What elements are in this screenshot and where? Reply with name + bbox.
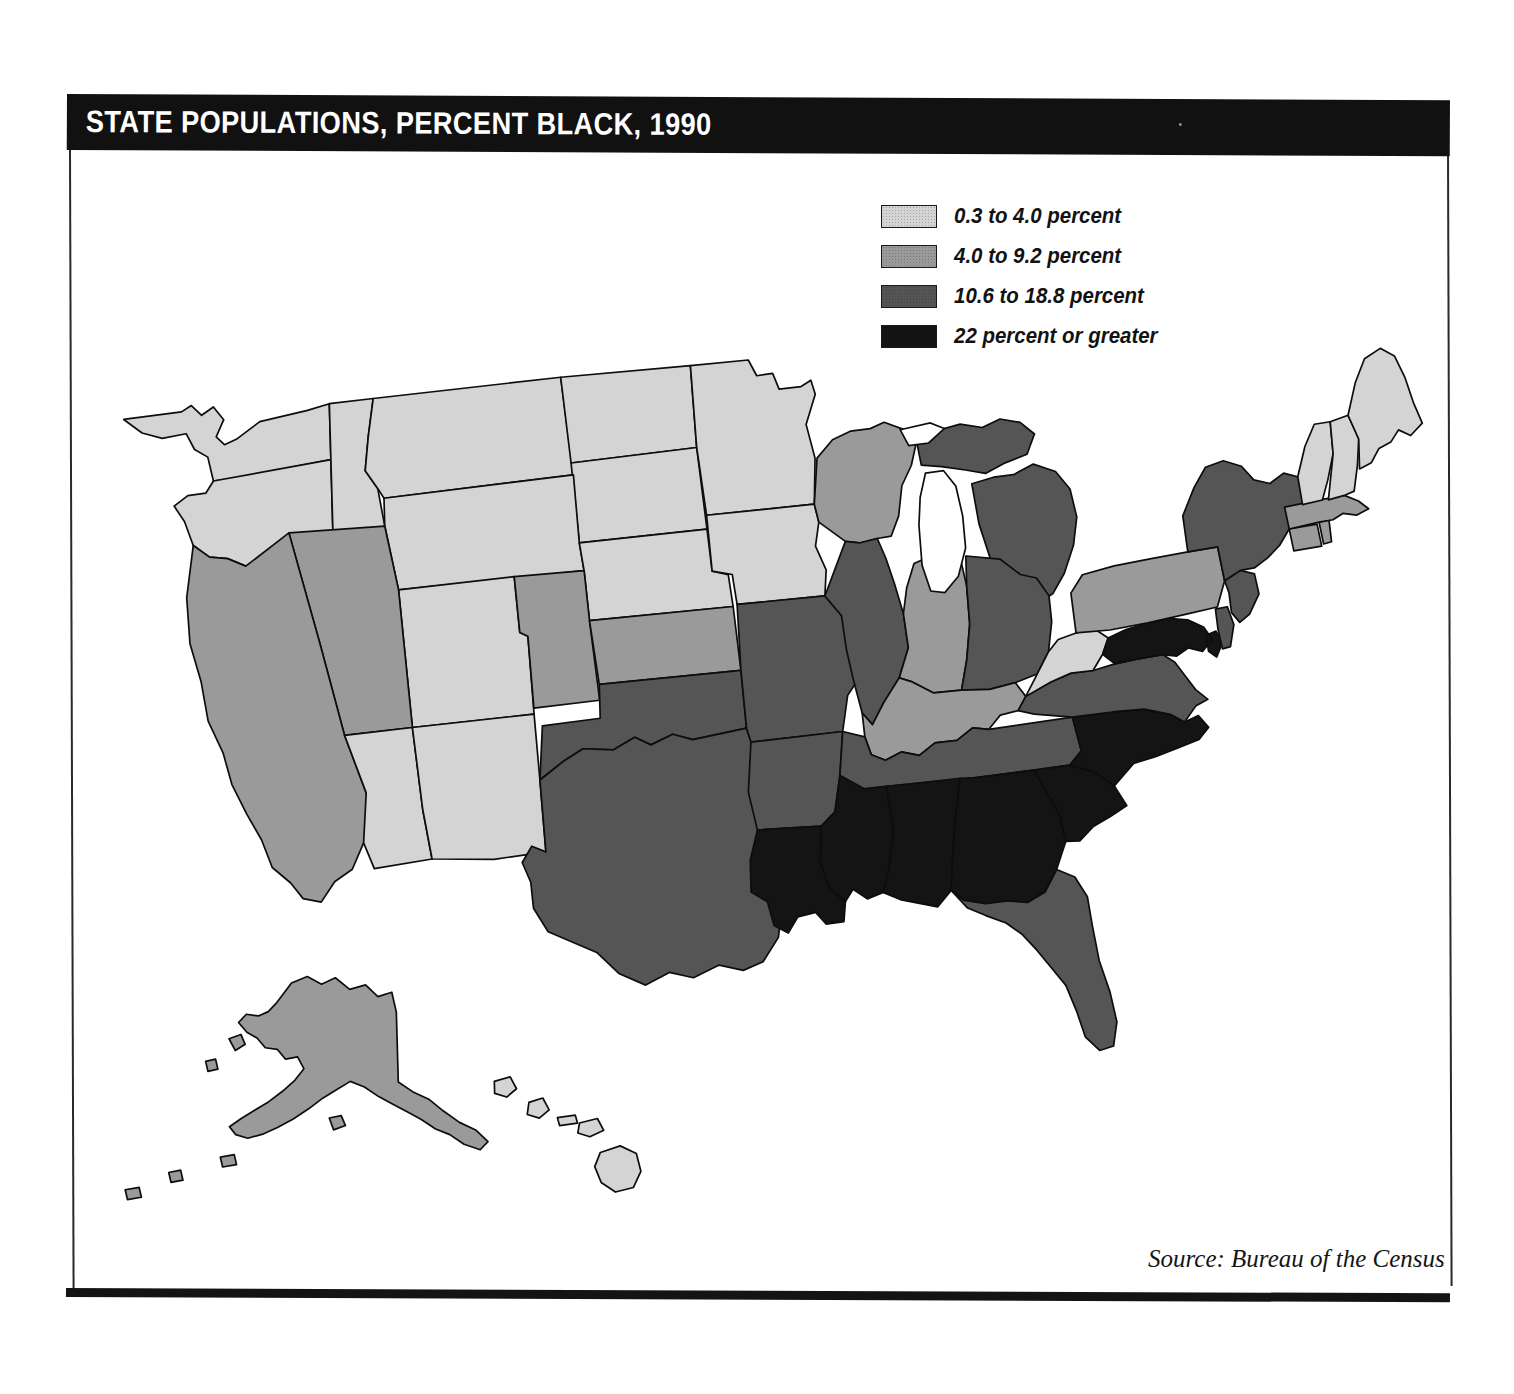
legend-swatch-bin3: [881, 285, 937, 308]
state-NM: [412, 714, 546, 862]
state-AK-island-1: [229, 1034, 245, 1050]
state-AK-island-3: [329, 1116, 345, 1130]
state-UT: [398, 576, 534, 728]
legend-label-bin2: 4.0 to 9.2 percent: [954, 243, 1121, 269]
page-rule-right: [1447, 148, 1453, 1286]
state-PA: [1070, 547, 1226, 633]
state-AK-island-4: [220, 1155, 236, 1167]
choropleth-map: [74, 330, 1434, 1230]
state-AK-island-6: [125, 1187, 141, 1199]
page-rule-bottom: [66, 1288, 1450, 1302]
legend-label-bin3: 10.6 to 18.8 percent: [954, 283, 1144, 309]
legend-swatch-bin1: [881, 205, 937, 228]
state-HI-oahu: [527, 1098, 550, 1119]
state-HI-molokai: [557, 1115, 577, 1126]
state-HI-kauai: [494, 1077, 517, 1098]
state-SD: [571, 447, 708, 543]
title-bar: STATE POPULATIONS, PERCENT BLACK, 1990: [67, 94, 1450, 156]
legend-item: 0.3 to 4.0 percent: [881, 196, 1211, 236]
map-figure: STATE POPULATIONS, PERCENT BLACK, 1990 0…: [0, 0, 1514, 1394]
state-AK-island-2: [206, 1059, 218, 1071]
legend-label-bin1: 0.3 to 4.0 percent: [954, 203, 1121, 229]
state-TX: [519, 727, 786, 988]
state-HI-maui: [577, 1118, 603, 1137]
source-attribution: Source: Bureau of the Census: [1148, 1245, 1445, 1273]
legend-item: 4.0 to 9.2 percent: [881, 236, 1211, 276]
legend-item: 10.6 to 18.8 percent: [881, 276, 1211, 316]
lake-michigan: [917, 470, 966, 593]
state-WI: [812, 421, 919, 544]
state-ND: [560, 366, 697, 464]
page-title: STATE POPULATIONS, PERCENT BLACK, 1990: [86, 102, 712, 145]
state-HI-big: [594, 1145, 641, 1192]
scan-speck: [1179, 123, 1182, 126]
state-MN: [690, 358, 818, 515]
state-AK: [225, 972, 488, 1157]
legend-swatch-bin2: [881, 245, 937, 268]
state-AK-island-5: [169, 1170, 183, 1182]
